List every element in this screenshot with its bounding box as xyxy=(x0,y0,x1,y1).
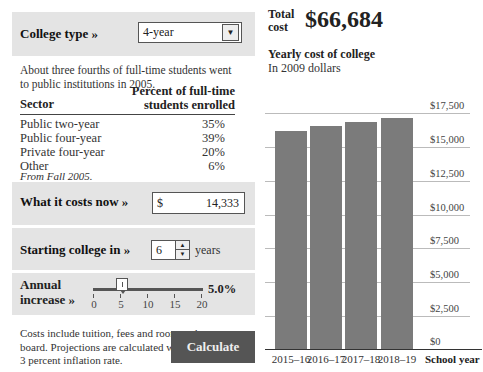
bar xyxy=(310,126,342,349)
calculate-button[interactable]: Calculate xyxy=(171,331,255,363)
cost-now-value: 14,333 xyxy=(206,196,239,211)
increase-value: 5.0% xyxy=(208,282,236,297)
label-line2: cost xyxy=(268,21,294,34)
starting-panel: Starting college in » 6 ▲ ▼ years xyxy=(12,228,255,270)
total-cost-label: Total cost xyxy=(268,8,294,34)
sector-name: Private four-year xyxy=(20,145,105,159)
header-sector: Sector xyxy=(20,97,54,112)
y-tick: $10,000 xyxy=(430,202,464,213)
table-row: Private four-year20% xyxy=(20,145,225,159)
y-tick: $0 xyxy=(430,336,441,347)
y-tick: $17,500 xyxy=(430,100,464,111)
chart-title: Yearly cost of college xyxy=(268,47,375,62)
spin-up-icon[interactable]: ▲ xyxy=(176,241,189,250)
increase-slider-track[interactable] xyxy=(93,288,203,291)
source-note: From Fall 2005. xyxy=(20,170,93,182)
sector-pct: 39% xyxy=(202,131,225,145)
y-tick: $7,500 xyxy=(430,235,459,246)
college-type-select[interactable]: 4-year ▼ xyxy=(138,22,242,43)
sector-name: Public four-year xyxy=(20,131,101,145)
label-line1: Annual xyxy=(20,277,75,292)
table-row: Public four-year39% xyxy=(20,131,225,145)
tick-label: 15 xyxy=(170,298,181,310)
y-tick: $12,500 xyxy=(430,168,464,179)
bar xyxy=(345,122,377,349)
annual-increase-panel: Annual increase » 5.0% 0 5 10 15 20 xyxy=(12,273,255,315)
x-label: 2015–16 xyxy=(272,353,311,365)
table-header: Sector Percent of full-time students enr… xyxy=(20,87,235,115)
x-axis xyxy=(265,349,482,350)
bar xyxy=(381,118,413,349)
increase-slider-thumb[interactable] xyxy=(116,278,128,291)
starting-label: Starting college in » xyxy=(20,242,130,258)
college-type-label: College type » xyxy=(20,26,98,42)
thumb-grip-icon xyxy=(122,282,123,287)
dropdown-arrow-icon[interactable]: ▼ xyxy=(222,24,239,41)
annual-increase-label: Annual increase » xyxy=(20,277,75,307)
cost-now-label: What it costs now » xyxy=(20,194,128,210)
total-cost-value: $66,684 xyxy=(305,6,383,33)
starting-years-input[interactable]: 6 xyxy=(151,240,176,260)
x-label: 2017–18 xyxy=(342,353,381,365)
enrollment-table: Public two-year35% Public four-year39% P… xyxy=(20,117,225,173)
label-line2: increase » xyxy=(20,292,75,307)
x-label: 2016–17 xyxy=(307,353,346,365)
gridline xyxy=(265,113,470,114)
table-row: Public two-year35% xyxy=(20,117,225,131)
header-percent: Percent of full-time students enrolled xyxy=(95,84,235,112)
cost-now-panel: What it costs now » $ 14,333 xyxy=(12,182,255,225)
tick-label: 10 xyxy=(143,298,154,310)
y-tick: $2,500 xyxy=(430,303,459,314)
years-stepper[interactable]: ▲ ▼ xyxy=(175,240,190,260)
tick-label: 5 xyxy=(118,298,124,310)
spin-down-icon[interactable]: ▼ xyxy=(176,250,189,259)
chart-subtitle: In 2009 dollars xyxy=(268,61,341,76)
x-label: 2018–19 xyxy=(378,353,417,365)
currency-symbol: $ xyxy=(157,196,163,211)
sector-name: Public two-year xyxy=(20,117,100,131)
college-type-value: 4-year xyxy=(143,25,174,39)
sector-pct: 35% xyxy=(202,117,225,131)
y-tick: $5,000 xyxy=(430,269,459,280)
sector-pct: 20% xyxy=(202,145,225,159)
sector-pct: 6% xyxy=(208,159,225,173)
tick-label: 0 xyxy=(91,298,97,310)
x-axis-title: School year xyxy=(425,353,480,365)
bar xyxy=(275,131,307,349)
yearly-cost-chart: $17,500 $15,000 $12,500 $10,000 $7,500 $… xyxy=(265,100,483,372)
y-tick: $15,000 xyxy=(430,134,464,145)
college-type-panel: College type » 4-year ▼ xyxy=(12,12,255,56)
years-unit: years xyxy=(195,243,220,258)
cost-now-input[interactable]: $ 14,333 xyxy=(152,192,245,214)
tick-label: 20 xyxy=(197,298,208,310)
